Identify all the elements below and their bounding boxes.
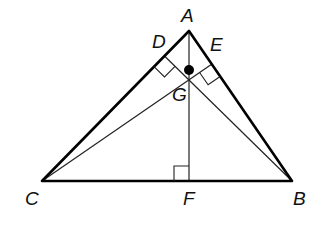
right-angle-marker-d	[154, 66, 175, 77]
label-f: F	[183, 188, 196, 209]
triangle-orthocenter-diagram: A D E G C F B	[0, 0, 323, 228]
label-c: C	[25, 188, 39, 209]
altitude-ce	[42, 64, 212, 181]
right-angle-marker-f	[174, 166, 189, 181]
label-b: B	[293, 188, 306, 209]
label-g: G	[172, 84, 187, 105]
label-a: A	[180, 5, 194, 26]
label-e: E	[210, 34, 223, 55]
altitude-bd	[165, 56, 293, 181]
label-d: D	[152, 31, 166, 52]
triangle-abc	[42, 31, 292, 181]
orthocenter-point-g	[184, 65, 194, 75]
